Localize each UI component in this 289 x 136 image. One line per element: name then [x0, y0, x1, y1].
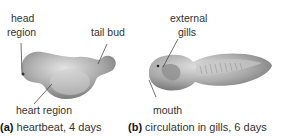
label-gills: gills: [178, 26, 196, 38]
caption-a-text: heartbeat, 4 days: [13, 121, 101, 133]
embryo-6-days: [149, 39, 272, 97]
label-mouth: mouth: [153, 104, 182, 116]
label-tail-bud: tail bud: [91, 26, 125, 38]
label-heart-region: heart region: [16, 104, 72, 116]
caption-b-text: circulation in gills, 6 days: [142, 121, 267, 133]
caption-a-letter: (a): [0, 121, 13, 133]
embryo-4-days: [21, 43, 116, 104]
label-head: head: [11, 12, 34, 24]
label-external: external: [170, 12, 207, 24]
caption-b: (b) circulation in gills, 6 days: [128, 121, 267, 133]
caption-b-letter: (b): [128, 121, 142, 133]
label-region: region: [7, 26, 36, 38]
caption-a: (a) heartbeat, 4 days: [0, 121, 102, 133]
